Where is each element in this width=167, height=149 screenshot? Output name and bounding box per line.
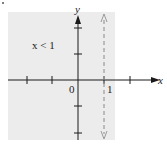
origin-label: 0 <box>69 83 75 95</box>
inequality-label: x < 1 <box>32 39 55 51</box>
inequality-graph: y x x < 1 0 1 <box>0 0 167 149</box>
x-axis-label: x <box>157 74 163 86</box>
shaded-region <box>8 12 115 140</box>
y-axis-label: y <box>74 3 80 15</box>
tick-label-one: 1 <box>107 83 113 95</box>
corner-dot <box>2 2 4 4</box>
